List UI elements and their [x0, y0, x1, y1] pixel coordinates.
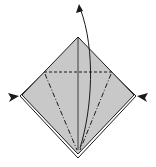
lift-arrow-head-icon: [76, 4, 83, 13]
right-push-arrow-icon: [137, 93, 148, 102]
left-push-arrow-icon: [8, 93, 19, 102]
origami-diagram: [0, 0, 156, 167]
